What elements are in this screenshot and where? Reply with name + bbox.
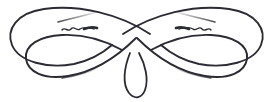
flourish-ornament-svg: Ornamental calligraphic flourish divider… [0,0,273,102]
background-rect [0,0,273,102]
ornament-canvas: Ornamental calligraphic flourish divider… [0,0,273,102]
